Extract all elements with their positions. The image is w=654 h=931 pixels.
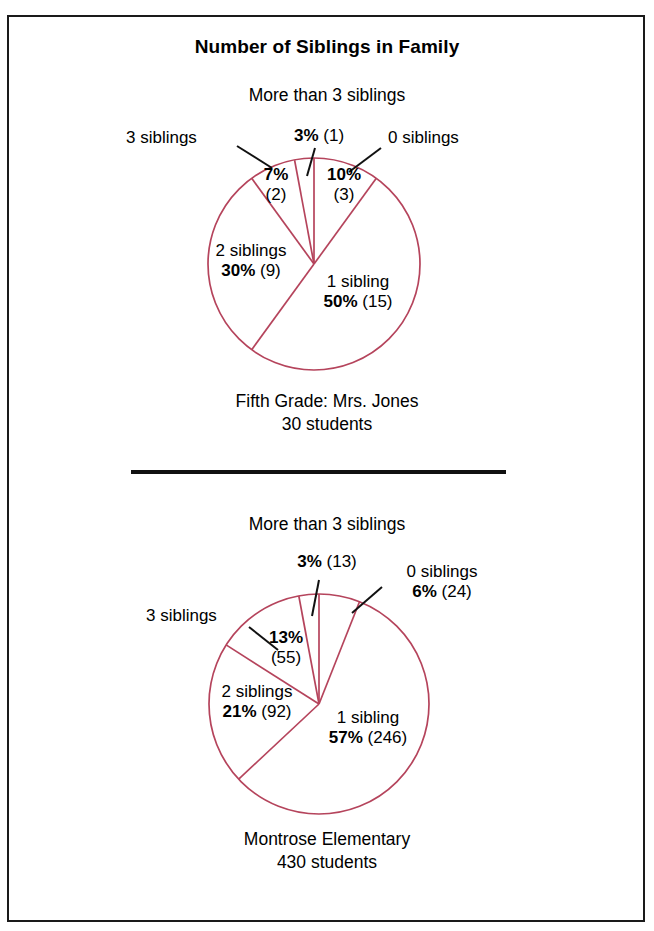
chart2-leader-more-than-3 [312, 580, 319, 616]
chart2-value-more-than-3-count: (13) [327, 552, 357, 571]
chart-fifth-grade: More than 3 siblings 3 siblings 7% (2) 3… [0, 0, 654, 470]
chart1-label-2-siblings-name: 2 siblings [216, 241, 287, 260]
chart1-caption-line1: Fifth Grade: Mrs. Jones [0, 390, 654, 413]
chart1-label-0-siblings-name: 0 siblings [388, 128, 459, 147]
chart1-value-1-sibling: 1 sibling 50% (15) [303, 272, 413, 312]
chart1-label-3-siblings-name: 3 siblings [126, 128, 197, 147]
chart2-value-3-siblings-count: (55) [271, 648, 301, 667]
chart1-value-1-sibling-pct: 50% [324, 292, 358, 311]
chart2-label-3-siblings-name: 3 siblings [146, 606, 217, 625]
chart1-value-more-than-3: 3% (1) [274, 126, 364, 146]
chart1-value-2-siblings-pct: 30% [221, 261, 255, 280]
chart-montrose: More than 3 siblings 3% (13) 0 siblings … [0, 470, 654, 931]
chart1-value-more-than-3-count: (1) [323, 126, 344, 145]
chart1-label-1-sibling-name: 1 sibling [327, 272, 389, 291]
chart2-value-1-sibling: 1 sibling 57% (246) [304, 708, 432, 748]
chart1-value-0-siblings-pct: 10% [327, 165, 361, 184]
chart2-value-more-than-3-pct: 3% [297, 552, 322, 571]
chart2-caption: Montrose Elementary 430 students [0, 828, 654, 874]
chart1-value-3-siblings-pct: 7% [264, 165, 289, 184]
chart2-value-1-sibling-pct: 57% [329, 728, 363, 747]
chart2-caption-line1: Montrose Elementary [0, 828, 654, 851]
chart1-label-0-siblings: 0 siblings [388, 128, 459, 148]
chart2-label-3-siblings: 3 siblings [146, 606, 217, 626]
chart2-value-2-siblings: 2 siblings 21% (92) [197, 682, 317, 722]
chart1-label-3-siblings: 3 siblings [126, 128, 197, 148]
chart2-label-0-siblings-name: 0 siblings [407, 562, 478, 581]
chart1-value-0-siblings-count: (3) [334, 185, 355, 204]
chart2-value-2-siblings-count: (92) [261, 702, 291, 721]
chart1-value-more-than-3-pct: 3% [294, 126, 319, 145]
chart2-value-0-siblings-count: (24) [442, 582, 472, 601]
chart1-value-2-siblings: 2 siblings 30% (9) [196, 241, 306, 281]
chart2-value-more-than-3: 3% (13) [272, 552, 382, 572]
chart2-caption-line2: 430 students [0, 851, 654, 874]
chart2-value-3-siblings: 13% (55) [253, 628, 319, 668]
chart2-value-1-sibling-count: (246) [368, 728, 408, 747]
chart1-caption: Fifth Grade: Mrs. Jones 30 students [0, 390, 654, 436]
chart2-label-1-sibling-name: 1 sibling [337, 708, 399, 727]
chart1-value-3-siblings-count: (2) [266, 185, 287, 204]
chart2-value-3-siblings-pct: 13% [269, 628, 303, 647]
chart2-label-0-siblings: 0 siblings 6% (24) [382, 562, 502, 602]
chart2-slice-edge-21 [319, 602, 360, 704]
chart1-caption-line2: 30 students [0, 413, 654, 436]
chart2-value-0-siblings-pct: 6% [412, 582, 437, 601]
chart1-value-2-siblings-count: (9) [260, 261, 281, 280]
chart2-value-2-siblings-pct: 21% [223, 702, 257, 721]
chart1-value-0-siblings: 10% (3) [315, 165, 373, 205]
chart1-value-3-siblings: 7% (2) [249, 165, 303, 205]
chart1-value-1-sibling-count: (15) [362, 292, 392, 311]
chart2-label-2-siblings-name: 2 siblings [222, 682, 293, 701]
